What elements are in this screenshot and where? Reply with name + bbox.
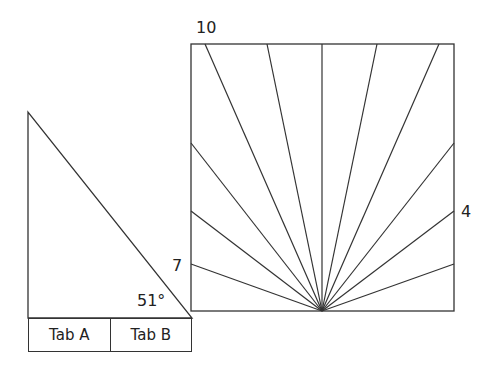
fan-line [322,44,377,311]
tab-b[interactable]: Tab B [110,319,192,351]
fan-line [205,44,322,311]
fan-lines [191,44,454,311]
fan-line [191,143,322,311]
label-4: 4 [461,204,471,220]
fan-line [191,264,322,311]
right-triangle [28,112,192,318]
fan-line [322,44,439,311]
tab-a[interactable]: Tab A [29,319,110,351]
diagram-canvas [0,0,495,372]
fan-line [191,211,322,311]
fan-line [322,264,454,311]
fan-line [267,44,322,311]
label-10: 10 [196,20,216,36]
fan-line [322,211,454,311]
fan-line [322,143,454,311]
tab-strip: Tab A Tab B [28,318,192,352]
angle-label: 51° [137,293,165,309]
label-7: 7 [172,258,182,274]
